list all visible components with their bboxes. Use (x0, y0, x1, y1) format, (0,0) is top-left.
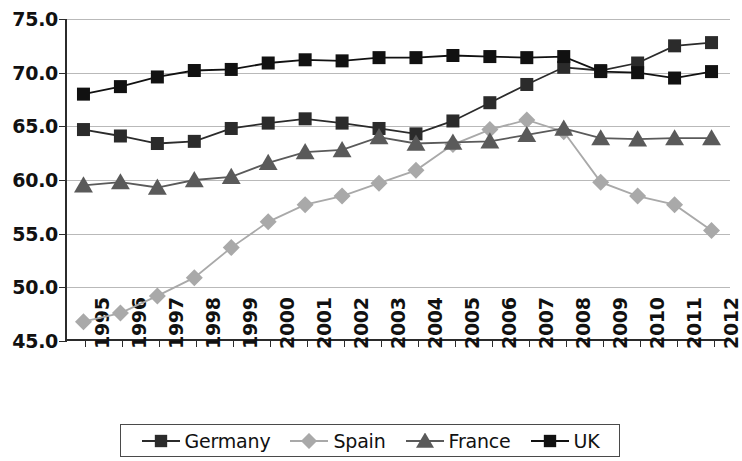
legend-label: France (449, 430, 511, 452)
x-axis-tick-label: 2012 (720, 297, 742, 349)
legend-label: UK (574, 430, 600, 452)
x-axis-tick-label: 1998 (202, 297, 224, 349)
x-axis-tick-label: 1997 (165, 297, 187, 349)
x-axis-tick-label: 1996 (128, 297, 150, 349)
x-axis-tick-label: 2006 (498, 297, 520, 349)
x-axis-tick-label: 2007 (535, 297, 557, 349)
legend-marker-triangle-icon (405, 433, 445, 449)
legend-item-france[interactable]: France (405, 430, 511, 452)
x-axis-tick-label: 2005 (461, 297, 483, 349)
x-axis-tick-label: 2011 (683, 297, 705, 349)
legend-item-spain[interactable]: Spain (289, 430, 385, 452)
chart-legend: GermanySpainFranceUK (120, 424, 620, 457)
legend-item-germany[interactable]: Germany (141, 430, 271, 452)
x-axis-tick-label: 2002 (350, 297, 372, 349)
x-axis-tick-label: 2010 (646, 297, 668, 349)
x-axis-tick-label: 2004 (424, 297, 446, 349)
legend-label: Germany (185, 430, 271, 452)
x-axis-tick-label: 2003 (387, 297, 409, 349)
legend-item-uk[interactable]: UK (530, 430, 600, 452)
legend-marker-square-icon (530, 433, 570, 449)
x-axis-tick-label: 2001 (313, 297, 335, 349)
legend-label: Spain (333, 430, 385, 452)
legend-marker-square-icon (141, 433, 181, 449)
x-axis-tick-label: 2000 (276, 297, 298, 349)
legend-marker-diamond-icon (289, 433, 329, 449)
x-axis-tick-label: 1999 (239, 297, 261, 349)
x-axis-tick-label: 2008 (572, 297, 594, 349)
x-axis-tick-label: 1995 (91, 297, 113, 349)
x-axis-tick-label: 2009 (609, 297, 631, 349)
